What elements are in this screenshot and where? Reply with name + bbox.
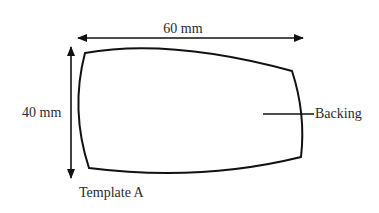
- template-diagram: 60 mm 40 mm Backing Template A: [0, 0, 379, 213]
- backing-label: Backing: [315, 106, 362, 121]
- template-outline: [78, 48, 302, 173]
- width-dimension-label: 60 mm: [163, 21, 202, 36]
- height-dimension-label: 40 mm: [22, 105, 61, 120]
- template-caption: Template A: [79, 185, 145, 200]
